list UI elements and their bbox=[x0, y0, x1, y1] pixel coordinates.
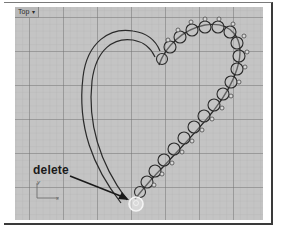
viewport-canvas bbox=[15, 7, 263, 220]
viewport-top[interactable]: Top ▾ delete y x bbox=[15, 7, 263, 220]
axis-x-label: x bbox=[56, 195, 59, 201]
delete-label: delete bbox=[33, 163, 69, 177]
axis-y-label: y bbox=[37, 179, 40, 185]
viewport-name: Top bbox=[18, 7, 29, 17]
dropdown-caret-icon[interactable]: ▾ bbox=[32, 7, 35, 17]
viewport-tab[interactable]: Top ▾ bbox=[15, 7, 39, 18]
delete-target-circle[interactable] bbox=[129, 197, 143, 211]
